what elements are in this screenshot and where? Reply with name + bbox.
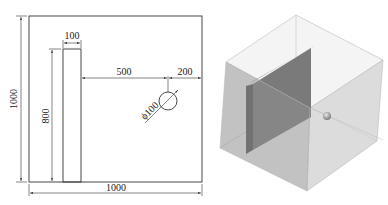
figure: 100 500 200 1000 1000 800 ϕ100 bbox=[0, 0, 388, 205]
sphere bbox=[323, 112, 331, 120]
label-plate-width: 100 bbox=[65, 30, 80, 41]
outer-boundary bbox=[29, 16, 202, 182]
technical-drawing bbox=[16, 16, 202, 196]
label-outer-height: 1000 bbox=[8, 89, 19, 109]
label-hole-diameter: ϕ100 bbox=[138, 99, 160, 121]
dimension-labels: 100 500 200 1000 1000 800 ϕ100 bbox=[8, 30, 193, 193]
plate-outline bbox=[63, 49, 81, 182]
label-plate-height: 800 bbox=[40, 109, 51, 124]
isometric-view bbox=[220, 15, 383, 191]
label-outer-width: 1000 bbox=[106, 182, 126, 193]
label-edge-offset: 200 bbox=[178, 66, 193, 77]
hole-circle bbox=[159, 92, 177, 110]
label-gap: 500 bbox=[117, 66, 132, 77]
